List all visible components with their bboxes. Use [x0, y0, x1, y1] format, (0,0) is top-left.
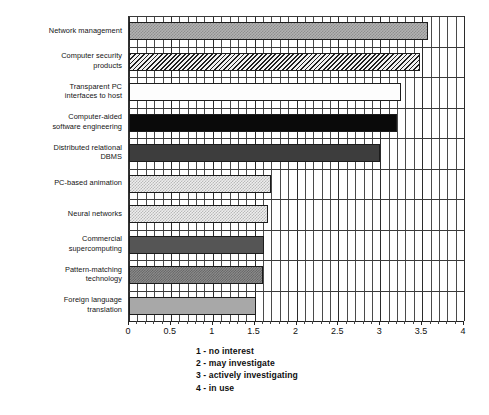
category-label-line: Transparent PC — [0, 82, 122, 91]
category-label-line: Neural networks — [0, 209, 122, 218]
axis-tick-major — [254, 321, 255, 325]
axis-tick-minor — [237, 321, 238, 324]
category-label: Pattern-matchingtechnology — [0, 265, 122, 284]
category-label-line: DBMS — [0, 152, 122, 161]
category-label: Computer-aidedsoftware engineering — [0, 112, 122, 131]
category-label: Foreign languagetranslation — [0, 295, 122, 314]
axis-tick-major — [379, 321, 380, 325]
axis-tick-minor — [287, 321, 288, 324]
axis-tick-minor — [195, 321, 196, 324]
bar — [129, 266, 263, 284]
category-label-line: supercomputing — [0, 244, 122, 253]
axis-tick-major — [463, 321, 464, 325]
legend-entry: 4 - in use — [196, 382, 396, 394]
legend-entry: 2 - may investigate — [196, 357, 396, 369]
category-label-line: Foreign language — [0, 295, 122, 304]
axis-tick-label: 1.5 — [234, 326, 274, 336]
category-label: Commercialsupercomputing — [0, 234, 122, 253]
category-label-line: Computer security — [0, 51, 122, 60]
bar — [129, 53, 420, 71]
axis-tick-major — [170, 321, 171, 325]
bar — [129, 236, 264, 254]
axis-tick-minor — [279, 321, 280, 324]
category-label-line: software engineering — [0, 122, 122, 131]
axis-tick-label: 2.5 — [317, 326, 357, 336]
bar — [129, 175, 271, 193]
category-label-line: Computer-aided — [0, 112, 122, 121]
axis-tick-label: 4 — [443, 326, 483, 336]
category-label-line: products — [0, 61, 122, 70]
axis-tick-minor — [187, 321, 188, 324]
axis-tick-minor — [245, 321, 246, 324]
axis-tick-major — [296, 321, 297, 325]
axis-tick-minor — [229, 321, 230, 324]
bars-layer — [129, 16, 464, 321]
axis-tick-minor — [354, 321, 355, 324]
axis-tick-minor — [455, 321, 456, 324]
axis-tick-label: 2 — [276, 326, 316, 336]
axis-tick-minor — [136, 321, 137, 324]
axis-tick-minor — [145, 321, 146, 324]
category-label: Neural networks — [0, 209, 122, 218]
category-label: Network management — [0, 26, 122, 35]
category-label: Computer securityproducts — [0, 51, 122, 70]
axis-tick-minor — [321, 321, 322, 324]
value-axis: 00.511.522.533.54 — [128, 321, 464, 345]
category-label-line: Commercial — [0, 234, 122, 243]
category-label: PC-based animation — [0, 178, 122, 187]
axis-tick-minor — [262, 321, 263, 324]
axis-tick-major — [128, 321, 129, 325]
axis-tick-minor — [413, 321, 414, 324]
bar — [129, 297, 256, 315]
axis-tick-minor — [404, 321, 405, 324]
axis-tick-minor — [304, 321, 305, 324]
axis-tick-minor — [329, 321, 330, 324]
legend-entry: 1 - no interest — [196, 345, 396, 357]
category-label-line: PC-based animation — [0, 178, 122, 187]
horizontal-bar-chart: Network managementComputer securityprodu… — [0, 0, 489, 415]
category-label-line: technology — [0, 274, 122, 283]
axis-tick-minor — [178, 321, 179, 324]
bar — [129, 114, 397, 132]
bar — [129, 144, 380, 162]
axis-tick-minor — [346, 321, 347, 324]
axis-tick-minor — [153, 321, 154, 324]
bar — [129, 22, 428, 40]
category-label: Transparent PCinterfaces to host — [0, 82, 122, 101]
axis-tick-minor — [203, 321, 204, 324]
axis-tick-major — [212, 321, 213, 325]
category-label: Distributed relationalDBMS — [0, 143, 122, 162]
axis-tick-minor — [396, 321, 397, 324]
category-label-line: Distributed relational — [0, 143, 122, 152]
axis-tick-label: 0.5 — [150, 326, 190, 336]
axis-tick-minor — [371, 321, 372, 324]
plot-area — [128, 16, 465, 321]
grid-line-major — [464, 16, 465, 321]
axis-tick-label: 3.5 — [401, 326, 441, 336]
axis-tick-minor — [388, 321, 389, 324]
axis-tick-minor — [363, 321, 364, 324]
axis-tick-major — [421, 321, 422, 325]
axis-tick-label: 0 — [108, 326, 148, 336]
axis-tick-minor — [162, 321, 163, 324]
axis-tick-major — [337, 321, 338, 325]
axis-tick-minor — [438, 321, 439, 324]
axis-tick-minor — [430, 321, 431, 324]
axis-tick-minor — [446, 321, 447, 324]
axis-tick-minor — [312, 321, 313, 324]
axis-tick-minor — [220, 321, 221, 324]
legend-entry: 3 - actively investigating — [196, 369, 396, 381]
category-label-line: translation — [0, 305, 122, 314]
category-label-line: interfaces to host — [0, 91, 122, 100]
legend: 1 - no interest2 - may investigate3 - ac… — [196, 345, 396, 394]
bar — [129, 205, 268, 223]
axis-tick-minor — [270, 321, 271, 324]
category-label-line: Network management — [0, 26, 122, 35]
category-label-line: Pattern-matching — [0, 265, 122, 274]
axis-tick-label: 3 — [359, 326, 399, 336]
axis-tick-label: 1 — [192, 326, 232, 336]
category-axis: Network managementComputer securityprodu… — [0, 16, 122, 321]
bar — [129, 83, 401, 101]
